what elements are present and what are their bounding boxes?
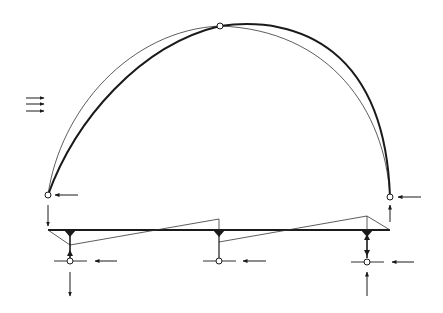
arch-thin-curve — [48, 26, 390, 197]
support-right — [351, 230, 414, 296]
arch-thick-curve — [48, 24, 390, 197]
crown-hinge-icon — [217, 23, 223, 29]
diagram-canvas — [0, 0, 443, 313]
right-arch-hinge-icon — [387, 194, 393, 200]
wind-load-arrows-icon — [26, 98, 44, 111]
support-left — [54, 230, 117, 296]
arch-diagram — [0, 0, 443, 313]
left-arch-hinge-icon — [45, 192, 51, 198]
